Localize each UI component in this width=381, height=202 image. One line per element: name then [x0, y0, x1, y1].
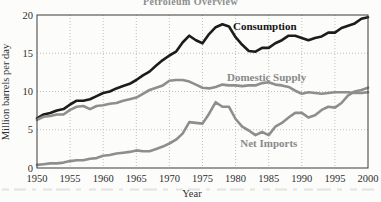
y-axis-title: Million barrels per day [0, 43, 11, 140]
x-tick-label: 1975 [192, 173, 213, 184]
x-tick-label: 1955 [60, 173, 81, 184]
y-tick-label: 0 [28, 163, 33, 174]
x-tick-label: 1995 [324, 173, 345, 184]
y-tick-label: 15 [23, 48, 34, 59]
x-tick-label: 1960 [93, 173, 114, 184]
x-tick-label: 1950 [27, 173, 48, 184]
x-axis-tick-labels: 1950195519601965197019751980198519901995… [27, 173, 379, 184]
series-label-consumption: Consumption [233, 20, 297, 32]
y-axis-tick-labels: 05101520 [23, 10, 34, 174]
y-tick-label: 20 [23, 10, 34, 21]
x-tick-label: 1985 [258, 173, 279, 184]
line-consumption [37, 17, 368, 118]
series-label-domestic-supply: Domestic Supply [227, 71, 307, 83]
series-inline-labels: ConsumptionDomestic SupplyNet Imports [227, 20, 307, 149]
series-label-net-imports: Net Imports [240, 137, 298, 149]
y-tick-label: 10 [23, 86, 34, 97]
x-tick-label: 1970 [159, 173, 180, 184]
x-tick-label: 1980 [225, 173, 246, 184]
x-tick-label: 2000 [358, 173, 379, 184]
x-tick-label: 1990 [291, 173, 312, 184]
petroleum-overview-figure: Petroleum Overview 195019551960196519701… [0, 0, 381, 202]
y-tick-label: 5 [28, 124, 33, 135]
petroleum-chart: 1950195519601965197019751980198519901995… [0, 0, 381, 202]
x-tick-label: 1965 [126, 173, 147, 184]
